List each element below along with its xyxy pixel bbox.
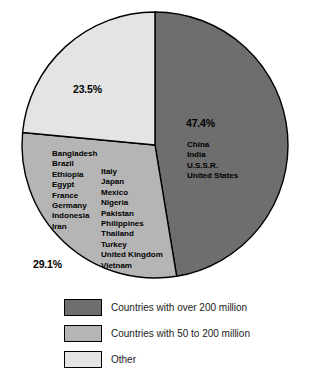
country-item: Egypt [52,180,97,190]
pie-chart: 47.4% 29.1% 23.5% China India U.S.S.R. U… [0,0,314,290]
country-item: United Kingdom [101,250,163,260]
country-item: Pakistan [101,209,163,219]
country-item: Brazil [52,159,97,169]
pie-slice-other[interactable] [23,12,155,145]
slice-percent-over-200-million: 47.4% [186,117,215,129]
legend-item-over-200-million[interactable]: Countries with over 200 million [64,298,247,316]
country-item: United States [187,171,238,181]
chart-legend: Countries with over 200 million Countrie… [0,293,314,382]
slice-percent-50-to-200-million: 29.1% [33,258,62,270]
country-item: U.S.S.R. [187,161,238,171]
country-item: Ethiopia [52,170,97,180]
legend-item-other[interactable]: Other [64,350,136,368]
country-item: Turkey [101,240,163,250]
legend-swatch-other [64,351,102,368]
country-list-50-to-200-million-column-2: Italy Japan Mexico Nigeria Pakistan Phil… [101,167,163,271]
legend-swatch-50-to-200-million [64,325,102,342]
country-item: Iran [52,222,97,232]
slice-percent-other: 23.5% [73,83,102,95]
legend-label-50-to-200-million: Countries with 50 to 200 million [111,328,250,339]
country-item: Bangladesh [52,149,97,159]
country-item: Philippines [101,219,163,229]
legend-label-other: Other [111,354,136,365]
country-list-over-200-million: China India U.S.S.R. United States [187,140,238,182]
country-item: Nigeria [101,198,163,208]
country-item: Germany [52,201,97,211]
country-item: Italy [101,167,163,177]
country-item: Indonesia [52,211,97,221]
legend-label-over-200-million: Countries with over 200 million [111,302,247,313]
country-item: Japan [101,177,163,187]
country-item: China [187,140,238,150]
legend-item-50-to-200-million[interactable]: Countries with 50 to 200 million [64,324,250,342]
country-list-50-to-200-million-column-1: Bangladesh Brazil Ethiopia Egypt France … [52,149,97,232]
country-item: Vietnam [101,261,163,271]
country-item: Mexico [101,188,163,198]
country-item: France [52,191,97,201]
legend-swatch-over-200-million [64,299,102,316]
country-item: Thailand [101,229,163,239]
country-item: India [187,150,238,160]
